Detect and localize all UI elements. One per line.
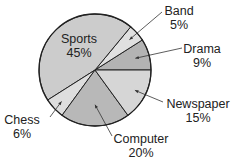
label-sports-name: Sports bbox=[58, 32, 100, 46]
label-chess-pct: 6% bbox=[4, 127, 40, 141]
label-chess-name: Chess bbox=[4, 113, 40, 127]
label-newspaper: Newspaper 15% bbox=[165, 97, 231, 125]
label-sports: Sports 45% bbox=[58, 32, 100, 60]
label-drama-name: Drama bbox=[182, 42, 222, 56]
label-chess: Chess 6% bbox=[4, 113, 40, 141]
label-computer: Computer 20% bbox=[113, 132, 169, 160]
leader-line-band bbox=[129, 12, 162, 40]
label-computer-pct: 20% bbox=[113, 146, 169, 160]
label-band-name: Band bbox=[162, 4, 196, 18]
label-drama-pct: 9% bbox=[182, 56, 222, 70]
label-band-pct: 5% bbox=[162, 18, 196, 32]
label-drama: Drama 9% bbox=[182, 42, 222, 70]
label-newspaper-pct: 15% bbox=[165, 111, 231, 125]
label-computer-name: Computer bbox=[113, 132, 169, 146]
label-newspaper-name: Newspaper bbox=[165, 97, 231, 111]
label-sports-pct: 45% bbox=[58, 46, 100, 60]
label-band: Band 5% bbox=[162, 4, 196, 32]
